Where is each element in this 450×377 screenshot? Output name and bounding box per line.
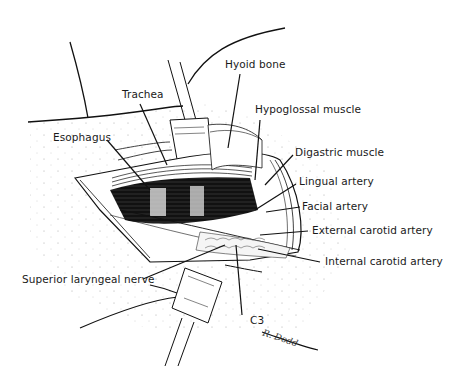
label-esophagus: Esophagus <box>53 132 111 143</box>
label-superior-laryngeal-nerve: Superior laryngeal nerve <box>22 274 155 285</box>
label-internal-carotid-artery: Internal carotid artery <box>325 256 443 267</box>
label-hypoglossal-muscle: Hypoglossal muscle <box>255 104 361 115</box>
surgical-illustration <box>0 0 450 377</box>
label-lingual-artery: Lingual artery <box>299 176 374 187</box>
label-c3: C3 <box>250 315 264 326</box>
label-digastric-muscle: Digastric muscle <box>295 147 384 158</box>
label-facial-artery: Facial artery <box>302 201 368 212</box>
label-hyoid-bone: Hyoid bone <box>225 59 286 70</box>
label-trachea: Trachea <box>122 89 164 100</box>
label-external-carotid-artery: External carotid artery <box>312 225 433 236</box>
